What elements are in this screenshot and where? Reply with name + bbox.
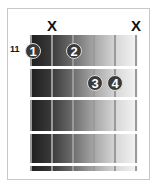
finger-marker-4: 4 bbox=[107, 75, 123, 91]
finger-marker-3: 3 bbox=[87, 75, 103, 91]
fret-line-4 bbox=[30, 163, 138, 166]
string-4 bbox=[93, 35, 95, 171]
fretboard bbox=[30, 35, 138, 171]
fret-line-3 bbox=[30, 131, 138, 134]
start-fret-number: 11 bbox=[10, 44, 20, 54]
finger-marker-2: 2 bbox=[66, 43, 82, 59]
muted-string-marker: X bbox=[129, 18, 143, 33]
fret-line-2 bbox=[30, 97, 138, 100]
string-5 bbox=[114, 35, 116, 171]
finger-marker-1: 1 bbox=[25, 43, 41, 59]
muted-string-marker: X bbox=[45, 18, 59, 33]
fret-line-1 bbox=[30, 66, 138, 69]
string-2 bbox=[51, 35, 53, 171]
string-6 bbox=[135, 35, 137, 171]
